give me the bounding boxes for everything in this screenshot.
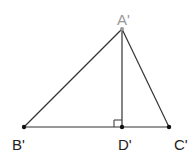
side-a-c [122,29,169,127]
vertex-d [120,125,124,129]
label-c: C' [174,136,188,153]
vertex-b [22,125,26,129]
side-a-b [24,29,122,127]
triangle-diagram: A' B' D' C' [0,0,195,157]
vertex-c [167,125,171,129]
label-b: B' [12,136,25,153]
label-d: D' [118,136,132,153]
label-a: A' [117,11,130,28]
